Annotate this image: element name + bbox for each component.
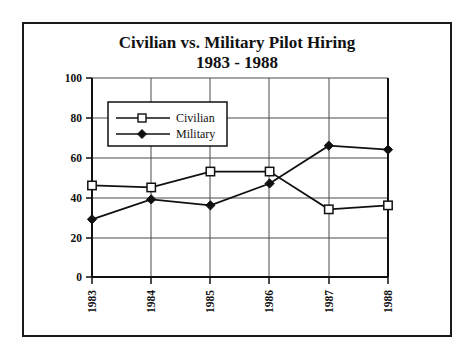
xtick-label-1985: 1985 [204, 290, 216, 313]
line-chart: Civilian vs. Military Pilot Hiring 1983 … [0, 0, 474, 357]
filled-diamond-marker-icon [265, 179, 274, 188]
series-military [87, 141, 392, 224]
xtick-label-1986: 1986 [263, 290, 275, 313]
open-square-marker-icon [384, 201, 392, 209]
open-square-marker-icon [265, 167, 273, 175]
x-tickmarks [92, 277, 388, 284]
chart-screenshot: Civilian vs. Military Pilot Hiring 1983 … [0, 0, 474, 357]
xtick-label-1987: 1987 [323, 290, 335, 313]
series-civilian [88, 167, 392, 213]
ytick-label-60: 60 [71, 152, 83, 164]
chart-legend: Civilian Military [108, 102, 227, 146]
ytick-label-20: 20 [71, 232, 83, 244]
ytick-label-0: 0 [76, 271, 82, 283]
open-square-marker-icon [138, 114, 146, 122]
filled-diamond-marker-icon [87, 215, 96, 224]
filled-diamond-marker-icon [383, 145, 392, 154]
legend-label-military: Military [176, 127, 215, 141]
ytick-label-80: 80 [71, 112, 83, 124]
xtick-label-1988: 1988 [382, 290, 394, 313]
open-square-marker-icon [147, 183, 155, 191]
ytick-label-100: 100 [65, 72, 83, 84]
chart-title: Civilian vs. Military Pilot Hiring [119, 33, 356, 52]
ytick-label-40: 40 [71, 192, 83, 204]
y-axis-labels: 100 80 60 40 20 0 [65, 72, 83, 283]
legend-label-civilian: Civilian [176, 111, 215, 125]
xtick-label-1984: 1984 [145, 290, 157, 313]
x-axis-labels: 1983 1984 1985 1986 1987 1988 [86, 290, 394, 313]
data-series-layer [87, 141, 392, 224]
filled-diamond-marker-icon [324, 141, 333, 150]
open-square-marker-icon [325, 205, 333, 213]
filled-diamond-marker-icon [147, 195, 156, 204]
open-square-marker-icon [206, 167, 214, 175]
xtick-label-1983: 1983 [86, 290, 98, 313]
open-square-marker-icon [88, 181, 96, 189]
chart-subtitle: 1983 - 1988 [196, 53, 278, 72]
filled-diamond-marker-icon [206, 201, 215, 210]
